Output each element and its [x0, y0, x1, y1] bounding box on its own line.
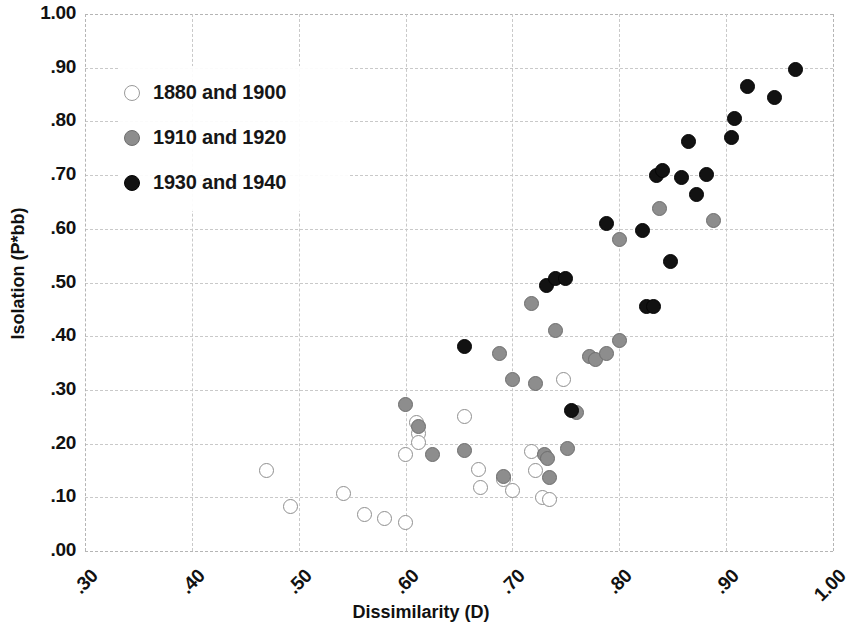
data-point — [398, 447, 413, 462]
y-tick-label: .20 — [8, 432, 76, 454]
x-axis-title: Dissimilarity (D) — [0, 602, 842, 623]
data-point — [377, 511, 392, 526]
gridline-vertical — [406, 14, 407, 551]
data-point — [655, 163, 670, 178]
data-point — [542, 492, 557, 507]
gridline-horizontal — [85, 229, 833, 230]
legend-label: 1930 and 1940 — [153, 171, 286, 194]
y-tick-label: .80 — [8, 109, 76, 131]
chart-legend: 1880 and 1900 1910 and 1920 1930 and 194… — [118, 66, 350, 211]
data-point — [548, 323, 563, 338]
data-point — [505, 372, 520, 387]
data-point — [336, 486, 351, 501]
data-point — [663, 254, 678, 269]
legend-item-1880-1900: 1880 and 1900 — [124, 70, 344, 115]
data-point — [612, 333, 627, 348]
data-point — [457, 409, 472, 424]
gray-circle-marker-icon — [124, 130, 140, 146]
gridline-vertical — [85, 14, 86, 551]
data-point — [724, 130, 739, 145]
data-point — [492, 346, 507, 361]
data-point — [599, 216, 614, 231]
data-point — [357, 507, 372, 522]
y-tick-label: .10 — [8, 485, 76, 507]
data-point — [558, 271, 573, 286]
data-point — [740, 79, 755, 94]
data-point — [788, 62, 803, 77]
black-circle-marker-icon — [124, 175, 140, 191]
data-point — [727, 111, 742, 126]
y-tick-label: 1.00 — [8, 2, 76, 24]
data-point — [457, 339, 472, 354]
gridline-horizontal — [85, 497, 833, 498]
data-point — [528, 376, 543, 391]
data-point — [706, 213, 721, 228]
data-point — [556, 372, 571, 387]
data-point — [699, 167, 714, 182]
gridline-vertical — [833, 14, 834, 551]
data-point — [259, 463, 274, 478]
data-point — [505, 483, 520, 498]
data-point — [457, 443, 472, 458]
legend-item-1910-1920: 1910 and 1920 — [124, 115, 344, 160]
data-point — [283, 499, 298, 514]
data-point — [681, 134, 696, 149]
data-point — [528, 463, 543, 478]
data-point — [560, 441, 575, 456]
data-point — [599, 346, 614, 361]
y-tick-label: .90 — [8, 56, 76, 78]
legend-item-1930-1940: 1930 and 1940 — [124, 160, 344, 205]
data-point — [689, 187, 704, 202]
data-point — [398, 397, 413, 412]
gridline-horizontal — [85, 390, 833, 391]
legend-label: 1880 and 1900 — [153, 81, 286, 104]
gridline-vertical — [726, 14, 727, 551]
data-point — [612, 232, 627, 247]
data-point — [473, 480, 488, 495]
data-point — [635, 223, 650, 238]
data-point — [540, 451, 555, 466]
data-point — [398, 515, 413, 530]
data-point — [652, 201, 667, 216]
data-point — [524, 296, 539, 311]
data-point — [411, 435, 426, 450]
data-point — [411, 419, 426, 434]
data-point — [674, 170, 689, 185]
data-point — [471, 462, 486, 477]
gridline-vertical — [512, 14, 513, 551]
gridline-horizontal — [85, 336, 833, 337]
data-point — [564, 403, 579, 418]
gridline-horizontal — [85, 283, 833, 284]
y-axis-title: Isolation (P*bb) — [8, 144, 29, 404]
gridline-horizontal — [85, 551, 833, 552]
gridline-vertical — [619, 14, 620, 551]
data-point — [646, 299, 661, 314]
y-tick-label: .00 — [8, 539, 76, 561]
data-point — [542, 470, 557, 485]
legend-label: 1910 and 1920 — [153, 126, 286, 149]
data-point — [767, 90, 782, 105]
gridline-horizontal — [85, 14, 833, 15]
open-circle-marker-icon — [124, 85, 140, 101]
data-point — [425, 447, 440, 462]
